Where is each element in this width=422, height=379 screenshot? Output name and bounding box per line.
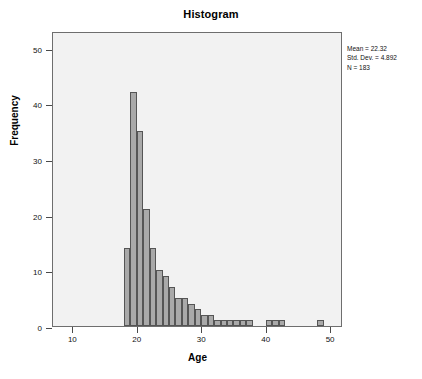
x-tick-mark (266, 327, 267, 333)
histogram-bar (317, 320, 323, 326)
x-tick-mark (72, 327, 73, 333)
x-tick-label: 30 (197, 335, 206, 344)
plot-area (52, 32, 342, 327)
x-tick-label: 10 (68, 335, 77, 344)
y-tick-label: 10 (33, 268, 42, 277)
y-tick-label: 20 (33, 212, 42, 221)
stat-std-dev: Std. Dev. = 4.892 (347, 53, 421, 62)
histogram-bar (279, 320, 285, 326)
x-tick-mark (201, 327, 202, 333)
x-tick-label: 40 (261, 335, 270, 344)
x-tick-mark (330, 327, 331, 333)
y-tick-label: 0 (38, 324, 42, 333)
statistics-annotation: Mean = 22.32 Std. Dev. = 4.892 N = 183 (347, 44, 421, 72)
histogram-figure: Histogram 01020304050 Frequency 10203040… (0, 0, 422, 379)
x-tick-label: 50 (326, 335, 335, 344)
y-tick-label: 50 (33, 45, 42, 54)
x-tick-label: 20 (132, 335, 141, 344)
y-axis-label: Frequency (9, 61, 20, 181)
page-title: Histogram (0, 8, 422, 20)
y-tick-label: 30 (33, 157, 42, 166)
y-tick-label: 40 (33, 101, 42, 110)
histogram-bar (246, 320, 252, 326)
stat-mean: Mean = 22.32 (347, 44, 421, 53)
x-tick-mark (137, 327, 138, 333)
x-axis-label: Age (52, 352, 343, 363)
stat-n: N = 183 (347, 63, 421, 72)
bars-container (53, 33, 341, 326)
